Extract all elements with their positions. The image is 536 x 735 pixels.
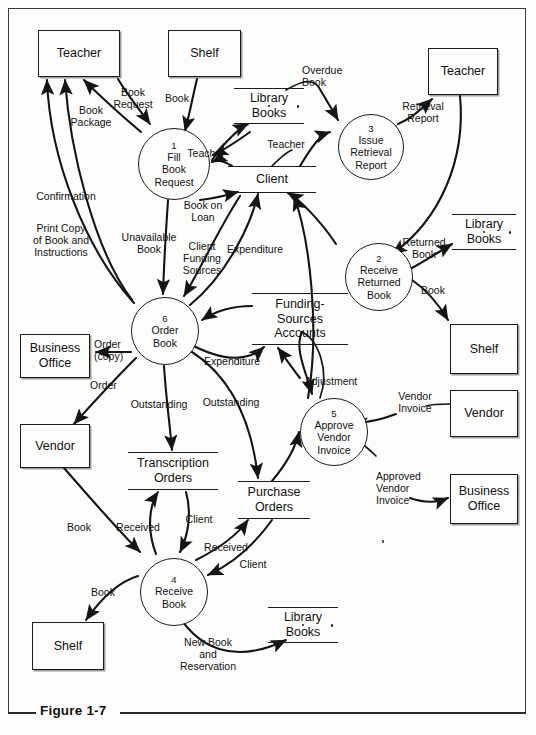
process-label: Receive Returned Book xyxy=(357,264,400,301)
datastore-label: Client xyxy=(256,171,288,188)
entity-shelf-top[interactable]: Shelf xyxy=(168,30,241,77)
flow-label-order-vendor: Order xyxy=(90,379,130,391)
flow-label-overdue-book: Overdue Book xyxy=(302,64,356,88)
entity-teacher-top-right[interactable]: Teacher xyxy=(428,48,498,95)
process-number: 3 xyxy=(368,123,373,134)
process-number: 5 xyxy=(331,408,336,419)
flow-label-order-copy: Order (copy) xyxy=(94,338,138,362)
entity-label: Teacher xyxy=(57,46,101,61)
flow-label-received-transcription: Received xyxy=(110,521,166,533)
datastore-transcription-orders[interactable]: Transcription Orders xyxy=(128,452,218,490)
entity-business-office-left[interactable]: Business Office xyxy=(20,334,90,378)
datastore-funding-sources-accounts[interactable]: Funding- Sources Accounts xyxy=(252,293,348,345)
entity-shelf-bottom[interactable]: Shelf xyxy=(32,622,104,670)
entity-label: Shelf xyxy=(190,46,219,61)
datastore-library-books-bottom[interactable]: Library Books xyxy=(268,607,338,643)
entity-label: Business Office xyxy=(30,341,81,371)
flow-label-vendor-invoice: Vendor Invoice xyxy=(388,390,442,414)
flow-label-teacher-p1: Teacher xyxy=(182,147,230,159)
process-3-issue-retrieval-report[interactable]: 3 Issue Retrieval Report xyxy=(338,114,404,180)
flow-label-book-shelf: Book xyxy=(158,92,196,104)
flow-label-book-vendor-p4: Book xyxy=(60,521,98,533)
flow-label-returned-book: Returned Book xyxy=(396,236,452,260)
entity-business-office-right[interactable]: Business Office xyxy=(450,474,518,524)
entity-label: Shelf xyxy=(470,342,499,357)
figure-caption: Figure 1-7 xyxy=(40,703,107,718)
flow-label-print-copy: Print Copy of Book and Instructions xyxy=(20,222,102,259)
diagram-page: Teacher Shelf Teacher Shelf Vendor Busin… xyxy=(0,0,536,735)
flow-label-received-purchase: Received xyxy=(198,541,254,553)
process-label: Approve Vendor Invoice xyxy=(314,419,353,456)
process-label: Order Book xyxy=(152,324,179,349)
datastore-label: Funding- Sources Accounts xyxy=(274,296,325,342)
flow-label-teacher-p3: Teacher xyxy=(262,138,310,150)
flow-label-book-p4-shelf: Book xyxy=(84,586,122,598)
entity-label: Business Office xyxy=(459,484,510,514)
datastore-client[interactable]: Client xyxy=(228,166,316,193)
entity-label: Vendor xyxy=(464,406,504,421)
flow-label-client-purchase: Client xyxy=(234,558,272,570)
entity-vendor-left[interactable]: Vendor xyxy=(20,424,90,468)
flow-label-book-p2-shelf: Book xyxy=(414,284,452,296)
flow-label-expenditure-fsa: Expenditure xyxy=(198,355,266,367)
process-label: Issue Retrieval Report xyxy=(350,134,391,171)
flow-label-client-funding-sources: Client Funding Sources xyxy=(178,240,226,277)
process-1-fill-book-request[interactable]: 1 Fill Book Request xyxy=(138,128,210,200)
process-4-receive-book[interactable]: 4 Receive Book xyxy=(140,558,208,626)
flow-label-outstanding-purchase: Outstanding xyxy=(198,396,264,408)
caption-rule-right xyxy=(120,712,526,714)
flow-label-book-package: Book Package xyxy=(62,104,120,128)
flow-label-unavailable-book: Unavailable Book xyxy=(114,231,184,255)
datastore-library-books-top[interactable]: Library Books xyxy=(234,88,304,124)
entity-label: Teacher xyxy=(441,64,485,79)
flow-label-confirmation: Confirmation xyxy=(28,190,104,202)
flow-label-approved-vendor-invoice: Approved Vendor Invoice xyxy=(376,470,438,507)
entity-label: Shelf xyxy=(54,639,83,654)
process-number: 6 xyxy=(162,313,167,324)
entity-label: Vendor xyxy=(35,439,75,454)
store-dot-right xyxy=(331,624,334,627)
entity-shelf-right[interactable]: Shelf xyxy=(450,324,518,374)
process-number: 2 xyxy=(376,253,381,264)
datastore-purchase-orders[interactable]: Purchase Orders xyxy=(238,481,310,519)
flow-label-book-on-loan: Book on Loan xyxy=(178,199,228,223)
flow-label-outstanding-transcription: Outstanding xyxy=(126,398,192,410)
datastore-label: Transcription Orders xyxy=(137,455,209,487)
flow-label-new-book-reservation: New Book and Reservation xyxy=(162,636,254,673)
flow-label-client-transcription: Client xyxy=(180,513,218,525)
entity-teacher-top-left[interactable]: Teacher xyxy=(38,30,120,77)
flow-label-adjustment: Adjustment xyxy=(298,375,364,387)
process-6-order-book[interactable]: 6 Order Book xyxy=(131,297,199,365)
page-speck xyxy=(382,540,384,543)
caption-rule-left xyxy=(8,712,36,714)
flow-label-retrieval-report: Retrieval Report xyxy=(396,100,450,124)
store-dot-right xyxy=(297,105,300,108)
process-number: 4 xyxy=(171,574,176,585)
process-5-approve-vendor-invoice[interactable]: 5 Approve Vendor Invoice xyxy=(300,398,368,466)
process-label: Receive Book xyxy=(155,585,193,610)
datastore-library-books-right[interactable]: Library Books xyxy=(452,214,516,250)
store-dot-right xyxy=(509,231,512,234)
datastore-label: Purchase Orders xyxy=(248,484,301,516)
process-number: 1 xyxy=(171,140,176,151)
flow-label-expenditure-client: Expenditure xyxy=(222,243,288,255)
entity-vendor-right[interactable]: Vendor xyxy=(450,390,518,437)
